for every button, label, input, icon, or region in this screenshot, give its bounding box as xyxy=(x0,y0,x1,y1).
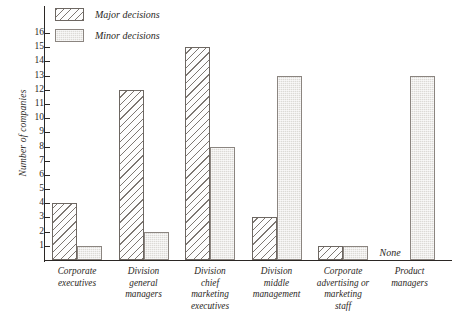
y-tick-mark xyxy=(44,118,50,119)
bar-minor xyxy=(277,76,302,260)
y-tick-mark xyxy=(44,189,50,190)
y-tick: 12 xyxy=(0,90,44,91)
legend-swatch-major xyxy=(55,8,84,21)
category-label-line: staff xyxy=(310,301,376,312)
y-tick-label: 7 xyxy=(6,156,44,166)
category-label-line: managers xyxy=(111,289,177,301)
category-label: Corporateadvertising ormarketingstaff xyxy=(310,266,376,312)
y-tick: 1 xyxy=(0,246,44,247)
category-label-line: Division xyxy=(244,266,310,278)
y-tick-mark xyxy=(44,246,50,247)
category-label: Corporateexecutives xyxy=(44,266,110,289)
y-tick: 6 xyxy=(0,175,44,176)
category-label: Divisionmiddlemanagement xyxy=(244,266,310,301)
category-label-line: middle xyxy=(244,278,310,290)
y-tick-mark xyxy=(44,33,50,34)
y-tick-mark xyxy=(44,203,50,204)
y-tick-mark xyxy=(44,47,50,48)
y-tick-label: 4 xyxy=(6,198,44,208)
category-label-line: executives xyxy=(177,301,243,312)
y-tick-label: 8 xyxy=(6,142,44,152)
y-tick-label: 16 xyxy=(6,28,44,38)
bar-major xyxy=(185,47,210,260)
chart-legend: Major decisionsMinor decisions xyxy=(55,6,160,48)
none-annotation: None xyxy=(380,247,401,258)
y-tick: 4 xyxy=(0,203,44,204)
y-tick-label: 15 xyxy=(6,42,44,52)
y-tick-mark xyxy=(44,104,50,105)
y-tick: 9 xyxy=(0,132,44,133)
y-tick-mark xyxy=(44,161,50,162)
y-tick-label: 14 xyxy=(6,56,44,66)
legend-item: Major decisions xyxy=(55,6,160,23)
bar-major xyxy=(318,246,343,260)
y-tick-mark xyxy=(44,132,50,133)
bar-minor xyxy=(410,76,435,260)
y-axis-line xyxy=(44,6,45,262)
y-tick-label: 9 xyxy=(6,127,44,137)
y-tick: 11 xyxy=(0,104,44,105)
y-tick-label: 2 xyxy=(6,227,44,237)
bar-major xyxy=(52,203,77,260)
category-label-line: Division xyxy=(177,266,243,278)
y-tick-mark xyxy=(44,217,50,218)
y-tick-label: 5 xyxy=(6,184,44,194)
y-tick-label: 12 xyxy=(6,85,44,95)
y-tick-label: 1 xyxy=(6,241,44,251)
category-label-line: general xyxy=(111,278,177,290)
y-tick: 15 xyxy=(0,47,44,48)
legend-label: Minor decisions xyxy=(95,30,160,41)
legend-label: Major decisions xyxy=(95,9,160,20)
y-tick-label: 10 xyxy=(6,113,44,123)
category-label-line: executives xyxy=(44,278,110,290)
legend-item: Minor decisions xyxy=(55,27,160,44)
category-label-line: Corporate xyxy=(310,266,376,278)
bar-major xyxy=(119,90,144,260)
y-tick: 7 xyxy=(0,161,44,162)
y-tick: 5 xyxy=(0,189,44,190)
y-tick: 14 xyxy=(0,61,44,62)
y-tick: 8 xyxy=(0,147,44,148)
category-label-line: marketing xyxy=(177,289,243,301)
category-label-line: marketing xyxy=(310,289,376,301)
category-label: Divisionchiefmarketingexecutives xyxy=(177,266,243,312)
y-tick: 16 xyxy=(0,33,44,34)
bar-minor xyxy=(77,246,102,260)
category-label-line: Corporate xyxy=(44,266,110,278)
y-tick-mark xyxy=(44,147,50,148)
y-tick-mark xyxy=(44,76,50,77)
y-tick-label: 13 xyxy=(6,71,44,81)
bar-minor xyxy=(144,232,169,260)
bar-minor xyxy=(343,246,368,260)
y-tick-mark xyxy=(44,61,50,62)
y-tick: 10 xyxy=(0,118,44,119)
y-tick-label: 3 xyxy=(6,212,44,222)
category-label: Divisiongeneralmanagers xyxy=(111,266,177,301)
category-label-line: managers xyxy=(377,278,443,290)
y-tick: 2 xyxy=(0,232,44,233)
category-label-line: Product xyxy=(377,266,443,278)
y-tick-mark xyxy=(44,175,50,176)
y-tick-label: 11 xyxy=(6,99,44,109)
bar-minor xyxy=(210,147,235,260)
y-tick-mark xyxy=(44,232,50,233)
x-axis-line xyxy=(44,260,452,261)
category-label: Productmanagers xyxy=(377,266,443,289)
bar-major xyxy=(252,217,277,260)
y-tick-label: 6 xyxy=(6,170,44,180)
category-label-line: management xyxy=(244,289,310,301)
y-tick-mark xyxy=(44,90,50,91)
category-label-line: advertising or xyxy=(310,278,376,290)
plot-area: Number of companies 12345678910111213141… xyxy=(0,0,456,312)
y-tick: 3 xyxy=(0,217,44,218)
legend-swatch-minor xyxy=(55,29,84,42)
bar-chart-figure: Number of companies 12345678910111213141… xyxy=(0,0,456,312)
category-label-line: chief xyxy=(177,278,243,290)
y-tick: 13 xyxy=(0,76,44,77)
category-label-line: Division xyxy=(111,266,177,278)
